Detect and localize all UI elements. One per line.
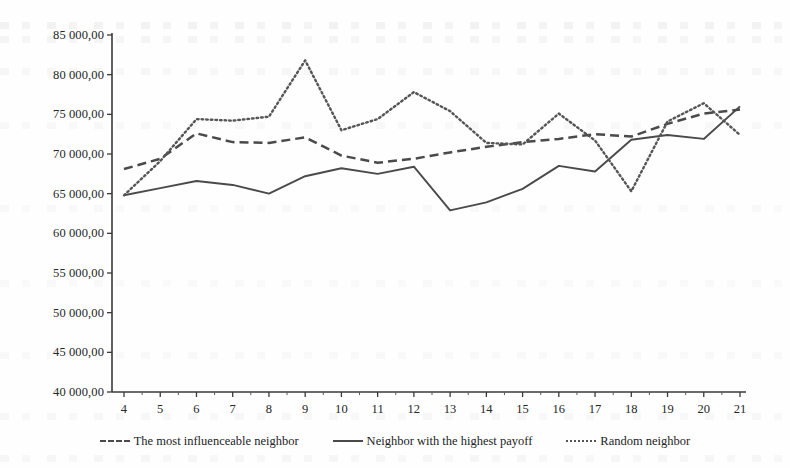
x-axis-tick-label: 11 (372, 402, 384, 417)
x-axis-tick-label: 21 (734, 402, 747, 417)
series-layer (124, 60, 740, 210)
x-axis-tick-label: 6 (193, 402, 199, 417)
x-axis-tick-label: 4 (121, 402, 127, 417)
legend-key-dotted-icon (566, 435, 596, 447)
plot-area (0, 0, 790, 468)
x-axis-tick-label: 14 (480, 402, 493, 417)
x-axis-tick-label: 8 (266, 402, 272, 417)
x-axis-tick-label: 9 (302, 402, 308, 417)
axis-layer (107, 33, 746, 397)
y-axis-tick-label: 85 000,00 (18, 28, 104, 43)
y-axis-tick-label: 80 000,00 (18, 67, 104, 82)
x-axis-tick-label: 12 (408, 402, 421, 417)
legend-label: Random neighbor (600, 434, 690, 449)
y-axis-tick-label: 55 000,00 (18, 266, 104, 281)
x-axis-tick-label: 5 (157, 402, 163, 417)
x-axis-tick-label: 20 (697, 402, 710, 417)
x-axis-tick-label: 7 (230, 402, 236, 417)
legend-key-dashed-icon (100, 435, 130, 447)
legend-label: The most influenceable neighbor (134, 434, 299, 449)
chart-figure: 40 000,0045 000,0050 000,0055 000,0060 0… (0, 0, 790, 468)
x-axis-tick-label: 16 (552, 402, 565, 417)
y-axis-tick-label: 75 000,00 (18, 107, 104, 122)
y-axis-tick-label: 70 000,00 (18, 147, 104, 162)
chart-legend: The most influenceable neighborNeighbor … (0, 428, 790, 454)
x-axis-tick-label: 17 (589, 402, 602, 417)
y-axis-tick-label: 40 000,00 (18, 385, 104, 400)
legend-entry[interactable]: Neighbor with the highest payoff (333, 434, 533, 449)
series-line-3 (124, 60, 740, 195)
y-axis-tick-label: 45 000,00 (18, 345, 104, 360)
x-axis-tick-label: 15 (516, 402, 529, 417)
y-axis-tick-label: 65 000,00 (18, 186, 104, 201)
x-axis-tick-label: 18 (625, 402, 638, 417)
y-axis-tick-label: 60 000,00 (18, 226, 104, 241)
x-axis-tick-label: 10 (335, 402, 348, 417)
legend-entry[interactable]: The most influenceable neighbor (100, 434, 299, 449)
legend-label: Neighbor with the highest payoff (367, 434, 533, 449)
legend-key-solid-icon (333, 435, 363, 447)
x-axis-tick-label: 13 (444, 402, 457, 417)
legend-entry[interactable]: Random neighbor (566, 434, 690, 449)
y-axis-tick-label: 50 000,00 (18, 305, 104, 320)
x-axis-tick-label: 19 (661, 402, 674, 417)
